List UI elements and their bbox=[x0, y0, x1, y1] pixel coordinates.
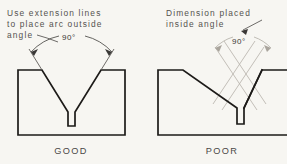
poor-leader-arrow bbox=[241, 29, 248, 35]
technical-drawing-canvas: Use extension lines to place arc outside… bbox=[0, 0, 287, 164]
poor-caption: POOR bbox=[206, 146, 238, 156]
poor-arc-arrow-left bbox=[215, 45, 222, 52]
good-caption: GOOD bbox=[54, 146, 87, 156]
good-note-line-3: angle bbox=[7, 30, 33, 40]
poor-example-group: Dimension placed inside angle 90° POOR bbox=[158, 8, 287, 156]
good-part-outline bbox=[18, 70, 125, 135]
good-example-group: Use extension lines to place arc outside… bbox=[7, 8, 125, 156]
poor-note-line-2: inside angle bbox=[166, 19, 225, 29]
poor-extension-line-right bbox=[224, 41, 266, 104]
good-leader-line bbox=[37, 35, 58, 42]
good-arc-arrow-right bbox=[105, 49, 112, 56]
poor-dimension-value: 90° bbox=[232, 37, 246, 46]
good-dimension-value: 90° bbox=[62, 33, 76, 42]
poor-dimension-arc-right bbox=[254, 37, 271, 48]
poor-arc-arrow-right bbox=[264, 45, 271, 52]
good-arc-arrow-left bbox=[31, 49, 38, 56]
good-dimension-arc-right bbox=[85, 36, 112, 52]
poor-extension-line-right-2 bbox=[215, 47, 257, 110]
good-note-line-2: to place arc outside bbox=[7, 19, 103, 29]
poor-part-outline bbox=[158, 70, 287, 135]
poor-dimension-arc-left bbox=[215, 37, 233, 48]
good-note-line-1: Use extension lines bbox=[7, 8, 101, 18]
good-dimension-arc-left bbox=[31, 36, 59, 52]
drafting-practice-figure: Use extension lines to place arc outside… bbox=[0, 0, 287, 164]
poor-note-line-1: Dimension placed bbox=[166, 8, 251, 18]
poor-leader-line bbox=[243, 20, 262, 30]
